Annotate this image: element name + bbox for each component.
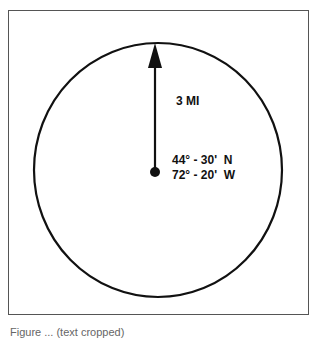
center-longitude: 72° - 20' W <box>172 168 235 182</box>
center-point-icon <box>150 167 160 177</box>
radius-label: 3 MI <box>176 94 199 108</box>
figure-caption: Figure ... (text cropped) <box>10 326 124 338</box>
north-arrow-head-icon <box>148 43 162 68</box>
center-latitude: 44° - 30' N <box>172 153 232 167</box>
